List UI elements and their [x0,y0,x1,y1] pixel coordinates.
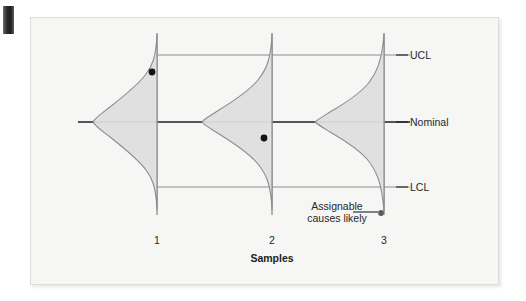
distribution-curve-sample-2 [202,34,272,210]
sample-tick-label-2: 2 [262,234,282,246]
nominal-label: Nominal [410,116,449,129]
x-axis-title: Samples [241,252,303,264]
figure-stage: UCL Nominal LCL Assignable causes likely… [0,0,526,301]
distribution-curve-sample-1 [93,34,157,210]
sample-tick-label-1: 1 [147,234,167,246]
distribution-curve-sample-3 [315,34,384,212]
sample-1-point [149,69,156,76]
sample-tick-label-3: 3 [374,234,394,246]
sample-3-out-of-control-point [378,210,384,216]
sample-2-point [261,135,268,142]
assignable-causes-annotation: Assignable causes likely [297,200,377,224]
ucl-label: UCL [410,49,431,62]
lcl-label: LCL [410,181,429,194]
